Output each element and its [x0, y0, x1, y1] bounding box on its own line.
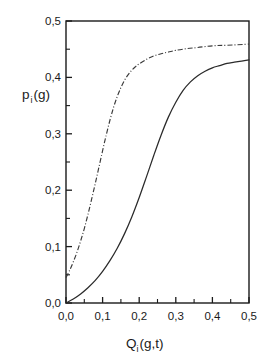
series-solid-curve	[66, 60, 249, 303]
x-axis-ticks	[66, 297, 249, 303]
y-tick-label: 0,4	[45, 71, 62, 83]
y-axis-title-rest: (g)	[34, 87, 51, 102]
series-dash-dot-curve	[66, 44, 249, 278]
x-tick-label: 0,5	[241, 310, 257, 322]
y-tick-label: 0,5	[45, 15, 61, 27]
y-axis-title-subscript: i	[31, 95, 33, 105]
y-axis-tick-labels: 0,00,10,20,30,40,5	[45, 15, 62, 309]
x-tick-label: 0,4	[204, 310, 221, 322]
chart-figure: 0,00,10,20,30,40,5 0,00,10,20,30,40,5 p …	[0, 0, 271, 360]
y-axis-ticks	[66, 21, 72, 303]
y-axis-title-base: p	[22, 87, 30, 102]
y-tick-label: 0,0	[45, 297, 61, 309]
y-tick-label: 0,2	[45, 184, 61, 196]
y-axis-title: p i (g)	[22, 87, 50, 105]
x-tick-label: 0,1	[95, 310, 111, 322]
y-tick-label: 0,3	[45, 128, 61, 140]
x-axis-title-subscript: i	[137, 344, 139, 354]
x-axis-tick-labels: 0,00,10,20,30,40,5	[58, 310, 257, 322]
x-axis-title-rest: (g,t)	[140, 336, 164, 351]
y-tick-label: 0,1	[45, 241, 61, 253]
x-axis-title: Q i (g,t)	[126, 336, 164, 354]
x-tick-label: 0,0	[58, 310, 74, 322]
x-axis-title-base: Q	[126, 336, 137, 351]
plot-canvas: 0,00,10,20,30,40,5 0,00,10,20,30,40,5 p …	[0, 0, 271, 360]
x-tick-label: 0,3	[168, 310, 184, 322]
x-tick-label: 0,2	[131, 310, 147, 322]
plot-frame	[66, 21, 249, 303]
